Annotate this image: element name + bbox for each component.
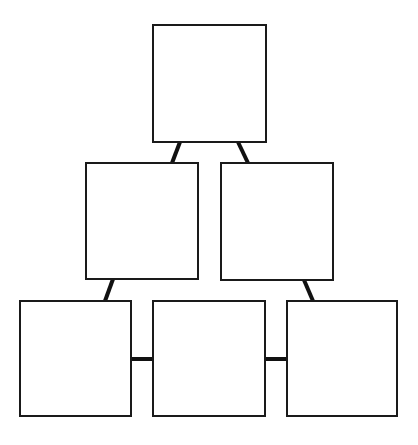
- connector-top-to-mid-left: [172, 142, 180, 163]
- box-top: [153, 25, 266, 142]
- diagram-boxes: [20, 25, 397, 416]
- connector-mid-right-to-bottom-right: [304, 280, 313, 301]
- box-bottom-right: [287, 301, 397, 416]
- box-bottom-left: [20, 301, 131, 416]
- box-outline: [20, 301, 131, 416]
- box-mid-right: [221, 163, 333, 280]
- box-outline: [287, 301, 397, 416]
- box-mid-left: [86, 163, 198, 279]
- connector-top-to-mid-right: [238, 142, 248, 163]
- box-outline: [221, 163, 333, 280]
- hierarchy-diagram: [0, 0, 418, 445]
- box-outline: [153, 25, 266, 142]
- box-outline: [86, 163, 198, 279]
- box-bottom-middle: [153, 301, 265, 416]
- connector-mid-left-to-bottom-left: [105, 279, 113, 301]
- box-outline: [153, 301, 265, 416]
